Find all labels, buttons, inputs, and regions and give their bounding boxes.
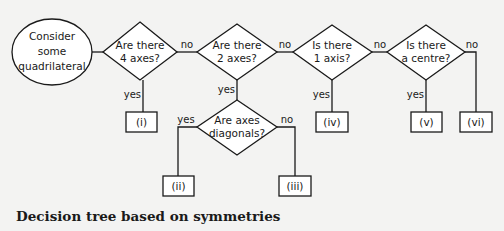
svg-text:no: no bbox=[281, 114, 293, 125]
svg-text:2 axes?: 2 axes? bbox=[217, 52, 257, 64]
decision-one-axis: Is there 1 axis? bbox=[293, 25, 372, 80]
outcome-vi: (vi) bbox=[460, 112, 492, 132]
svg-text:a centre?: a centre? bbox=[402, 52, 451, 64]
svg-text:yes: yes bbox=[177, 114, 194, 125]
outcome-i: (i) bbox=[126, 112, 157, 132]
outcome-iii: (iii) bbox=[279, 176, 311, 196]
figure-caption: Decision tree based on symmetries bbox=[16, 208, 280, 224]
svg-text:1 axis?: 1 axis? bbox=[314, 52, 351, 64]
svg-text:quadrilateral: quadrilateral bbox=[18, 60, 85, 72]
svg-text:yes: yes bbox=[124, 89, 141, 100]
svg-text:Is there: Is there bbox=[406, 39, 446, 51]
svg-text:(iii): (iii) bbox=[287, 180, 304, 192]
svg-text:Consider: Consider bbox=[29, 30, 76, 42]
svg-text:no: no bbox=[466, 39, 478, 50]
svg-text:Are axes: Are axes bbox=[214, 114, 259, 126]
start-node: Consider some quadrilateral bbox=[12, 19, 92, 85]
svg-text:some: some bbox=[38, 45, 67, 57]
decision-tree-diagram: Consider some quadrilateral Are there 4 … bbox=[0, 0, 504, 231]
decision-four-axes: Are there 4 axes? bbox=[103, 22, 177, 80]
svg-text:(i): (i) bbox=[136, 116, 147, 128]
svg-text:Is there: Is there bbox=[312, 39, 352, 51]
svg-text:(v): (v) bbox=[419, 116, 433, 128]
svg-text:Are there: Are there bbox=[213, 39, 262, 51]
svg-text:no: no bbox=[181, 39, 193, 50]
svg-text:Are there: Are there bbox=[116, 39, 165, 51]
svg-text:diagonals?: diagonals? bbox=[209, 127, 265, 139]
svg-text:(iv): (iv) bbox=[323, 116, 340, 128]
decision-two-axes: Are there 2 axes? bbox=[197, 24, 277, 80]
svg-text:no: no bbox=[374, 39, 386, 50]
outcome-iv: (iv) bbox=[316, 112, 348, 132]
svg-text:yes: yes bbox=[407, 89, 424, 100]
svg-text:yes: yes bbox=[313, 89, 330, 100]
decision-axes-diagonals: Are axes diagonals? bbox=[197, 100, 277, 155]
decision-centre: Is there a centre? bbox=[387, 25, 465, 80]
svg-text:no: no bbox=[279, 39, 291, 50]
outcome-v: (v) bbox=[411, 112, 442, 132]
svg-text:(vi): (vi) bbox=[467, 116, 484, 128]
svg-text:4 axes?: 4 axes? bbox=[120, 52, 160, 64]
svg-text:(ii): (ii) bbox=[171, 180, 185, 192]
svg-text:yes: yes bbox=[218, 84, 235, 95]
outcome-ii: (ii) bbox=[163, 176, 194, 196]
